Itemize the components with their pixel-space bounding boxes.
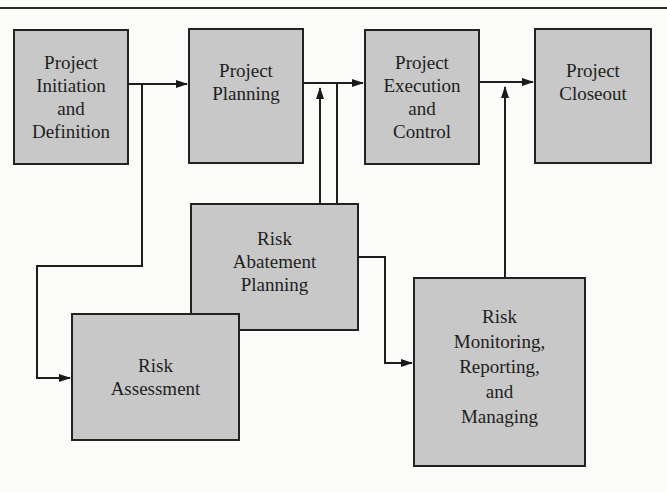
node-project-planning: Project Planning (188, 28, 304, 164)
node-label: Project Initiation and Definition (32, 51, 110, 143)
node-risk-assessment: Risk Assessment (71, 313, 240, 441)
node-label: Project Planning (212, 59, 280, 105)
node-risk-abatement-planning: Risk Abatement Planning (190, 203, 359, 331)
node-project-execution: Project Execution and Control (364, 29, 480, 165)
node-project-closeout: Project Closeout (534, 28, 652, 164)
node-label: Risk Monitoring, Reporting, and Managing (454, 304, 545, 429)
node-label: Risk Abatement Planning (233, 227, 316, 296)
node-project-initiation: Project Initiation and Definition (13, 29, 129, 165)
node-label: Project Execution and Control (383, 51, 460, 143)
node-risk-monitoring: Risk Monitoring, Reporting, and Managing (413, 277, 586, 467)
node-label: Risk Assessment (111, 354, 201, 400)
node-label: Project Closeout (559, 59, 627, 105)
